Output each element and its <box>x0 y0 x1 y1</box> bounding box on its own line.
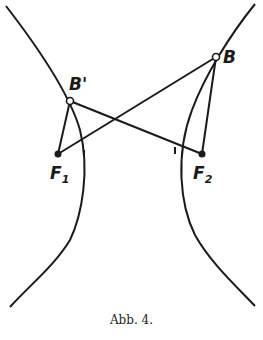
segment-bprime-f1 <box>58 101 70 154</box>
label-f1: F1 <box>50 165 69 185</box>
focus-f1 <box>55 151 62 158</box>
label-f2: F2 <box>193 165 212 185</box>
point-b-prime <box>67 98 74 105</box>
label-b-prime: B' <box>69 76 87 93</box>
point-b <box>213 54 220 61</box>
hyperbola-figure: B' B F1 F2 Abb. 4. <box>0 0 263 340</box>
label-b: B <box>223 49 236 66</box>
figure-caption: Abb. 4. <box>0 313 263 327</box>
focus-f2 <box>199 151 206 158</box>
hyperbola-left-branch <box>6 6 85 307</box>
segment-bprime-f2 <box>70 101 202 154</box>
hyperbola-right-branch <box>181 4 255 306</box>
